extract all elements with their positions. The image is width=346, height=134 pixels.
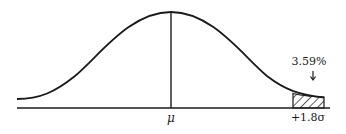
mean-label: μ [167, 111, 175, 125]
tail-percent-label: 3.59% [292, 55, 327, 68]
threshold-label: +1.8σ [291, 111, 326, 124]
normal-curve-diagram: μ +1.8σ 3.59% [0, 0, 346, 134]
arrow-down-icon [311, 71, 316, 80]
